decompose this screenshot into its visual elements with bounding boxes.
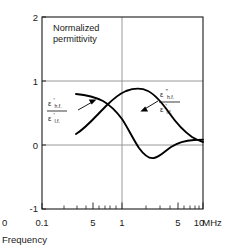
x-tick-label-5: 5: [175, 217, 180, 228]
permittivity-dispersion-chart: ε ' h.f. ε ' l.f. ε '' h.f. ε ' l.f. Nor…: [0, 0, 238, 248]
chart-title-line2: permittivity: [53, 34, 97, 44]
x-tick-label-0.1: 0.1: [35, 217, 48, 228]
loss-part-annotation: ε '' h.f. ε ' l.f.: [159, 88, 180, 116]
real-part-annotation: ε ' h.f. ε ' l.f.: [47, 97, 67, 125]
loss-part-numerator-subscript: h.f.: [167, 94, 174, 100]
arrowhead-real-part: [89, 99, 97, 104]
real-part-numerator-subscript: h.f.: [55, 103, 62, 109]
plot-frame: [42, 17, 203, 209]
x-axis-title: Frequency: [2, 234, 47, 245]
y-axis-ticks: [42, 17, 46, 209]
x-axis-ticks: [42, 203, 203, 210]
loss-part-denominator-subscript: l.f.: [167, 109, 172, 115]
x-axis-unit: MHz: [202, 217, 222, 228]
real-part-denominator-symbol: ε: [48, 114, 52, 123]
gridlines: [42, 17, 203, 209]
real-part-denominator-subscript: l.f.: [55, 118, 60, 124]
annotation-leaders: [78, 99, 158, 111]
y-tick-label-2: 2: [33, 12, 38, 23]
curve-loss-part-ratio: [76, 94, 203, 158]
x-tick-label-0.5: 5: [90, 217, 95, 228]
x-axis-origin-label: 0: [2, 217, 7, 228]
loss-part-numerator-symbol: ε: [160, 90, 164, 99]
curve-real-part-ratio: [76, 89, 203, 142]
real-part-numerator-symbol: ε: [48, 99, 52, 108]
chart-svg: ε ' h.f. ε ' l.f. ε '' h.f. ε ' l.f. Nor…: [0, 0, 238, 248]
y-tick-label-minus1: -1: [30, 203, 38, 214]
chart-title-line1: Normalized: [53, 23, 99, 33]
y-tick-label-0: 0: [33, 140, 38, 151]
x-tick-label-1: 1: [119, 217, 124, 228]
y-tick-label-1: 1: [33, 76, 38, 87]
